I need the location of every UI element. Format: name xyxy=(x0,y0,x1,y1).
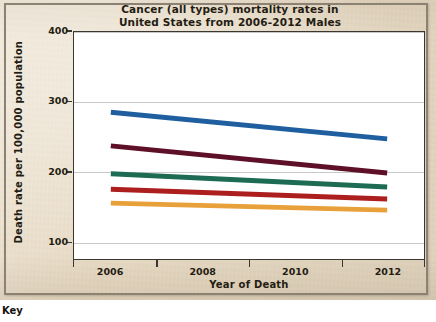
y-tick-label-400: 400 xyxy=(34,25,68,36)
chart-title: Cancer (all types) mortality rates in Un… xyxy=(60,3,400,28)
x-tick-mark-2009 xyxy=(249,260,250,267)
line-series-4 xyxy=(111,189,387,199)
series-lines xyxy=(74,32,424,259)
x-axis-title: Year of Death xyxy=(73,279,425,290)
line-series-2 xyxy=(111,146,387,173)
line-series-3 xyxy=(111,174,387,187)
x-axis-end-left xyxy=(73,260,74,267)
chart-title-line-2: United States from 2006-2012 Males xyxy=(60,16,400,29)
plot-area xyxy=(73,31,425,260)
x-tick-label-2012: 2012 xyxy=(363,266,413,277)
y-tick-label-300: 300 xyxy=(34,95,68,106)
x-tick-label-2008: 2008 xyxy=(178,266,228,277)
x-tick-mark-2011 xyxy=(342,260,343,267)
y-tick-label-100: 100 xyxy=(34,236,68,247)
chart-screenshot: Cancer (all types) mortality rates in Un… xyxy=(0,0,436,322)
chart-title-line-1: Cancer (all types) mortality rates in xyxy=(60,3,400,16)
x-tick-label-2006: 2006 xyxy=(85,266,135,277)
x-tick-label-2010: 2010 xyxy=(270,266,320,277)
line-series-5 xyxy=(111,203,387,210)
x-tick-mark-2007 xyxy=(156,260,157,267)
line-series-1 xyxy=(111,112,387,139)
x-axis-end-right xyxy=(424,260,425,267)
y-axis-title: Death rate per 100,000 population xyxy=(13,44,24,244)
y-tick-label-200: 200 xyxy=(34,166,68,177)
y-axis-ticks: 100200300400 xyxy=(28,0,68,322)
key-label: Key xyxy=(2,305,23,316)
